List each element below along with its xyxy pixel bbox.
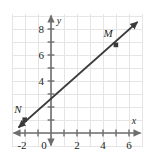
y-tick-label-8: 8 [39, 23, 45, 35]
data-point-m [114, 43, 119, 48]
point-label-n: N [13, 103, 22, 115]
data-point-n [22, 117, 27, 122]
y-tick-label-4: 4 [39, 75, 45, 87]
y-tick-label-6: 6 [39, 49, 45, 61]
x-tick-label--2: -2 [17, 139, 26, 151]
x-tick-label-4: 4 [100, 139, 106, 151]
point-label-m: M [102, 27, 113, 39]
line-graph-svg: -2 0 2 4 6 4 6 8 x y M N [0, 0, 152, 162]
coordinate-plane-figure: -2 0 2 4 6 4 6 8 x y M N [0, 0, 152, 162]
y-axis-label: y [56, 15, 62, 26]
x-axis-label: x [131, 115, 137, 126]
x-tick-label-2: 2 [74, 139, 80, 151]
x-tick-label-0: 0 [41, 139, 47, 151]
x-tick-label-6: 6 [126, 139, 132, 151]
